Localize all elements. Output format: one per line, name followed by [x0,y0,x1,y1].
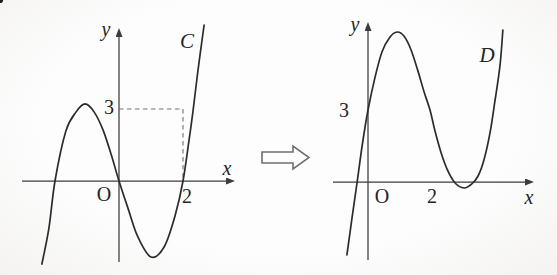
curve-C [42,25,204,264]
panel-curve-D: y x O 3 2 D [0,0,534,260]
x-tick-2-label: 2 [182,185,192,207]
y-axis-label: y [349,13,360,36]
curve-C-label: C [180,29,195,53]
figure-canvas: y x O 3 2 C y x O 3 2 D [0,0,557,275]
x-axis-label: x [524,186,534,208]
figure-curve-translation: y x O 3 2 C y x O 3 2 D [0,0,557,275]
rightwards-block-arrow-icon [262,146,309,169]
origin-label: O [375,185,389,207]
curve-D-label: D [478,43,494,67]
x-tick-2-label: 2 [427,185,437,207]
marked-point-2-3 [0,0,3,3]
panel-curve-C: y x O 3 2 C [22,18,232,264]
origin-label: O [97,183,111,205]
x-axis-label: x [222,157,232,179]
y-tick-3-label: 3 [104,96,114,118]
y-tick-3-label: 3 [339,99,349,121]
y-axis-label: y [100,18,111,41]
